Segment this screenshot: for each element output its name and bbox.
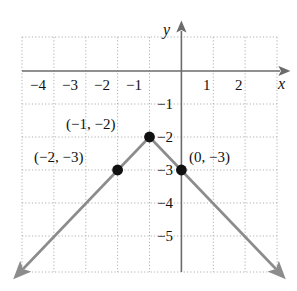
y-tick-label-minus1: −1 <box>157 97 173 112</box>
x-tick-label-2: 2 <box>235 78 243 93</box>
x-tick-label-minus3: −3 <box>62 78 78 93</box>
x-axis-label: x <box>278 76 285 92</box>
y-tick-label-minus5: −5 <box>157 229 173 244</box>
plot-point-vertex <box>144 132 155 143</box>
point-label-left: (−2, −3) <box>34 150 83 165</box>
x-tick-label-minus1: −1 <box>126 78 142 93</box>
x-tick-label-1: 1 <box>203 78 211 93</box>
coordinate-plane <box>0 0 297 291</box>
y-axis-label: y <box>163 22 170 38</box>
y-tick-label-minus2: −2 <box>157 130 173 145</box>
y-tick-label-minus4: −4 <box>157 196 173 211</box>
point-label-right: (0, −3) <box>189 150 230 165</box>
plot-point-right <box>176 165 187 176</box>
point-label-vertex: (−1, −2) <box>66 117 115 132</box>
x-tick-label-minus2: −2 <box>94 78 110 93</box>
graph-figure: y x −4 −3 −2 −1 1 2 −1 −2 −3 −4 −5 (−1, … <box>0 0 297 291</box>
x-tick-label-minus4: −4 <box>30 78 46 93</box>
y-tick-label-minus3: −3 <box>157 163 173 178</box>
plot-point-left <box>112 165 123 176</box>
